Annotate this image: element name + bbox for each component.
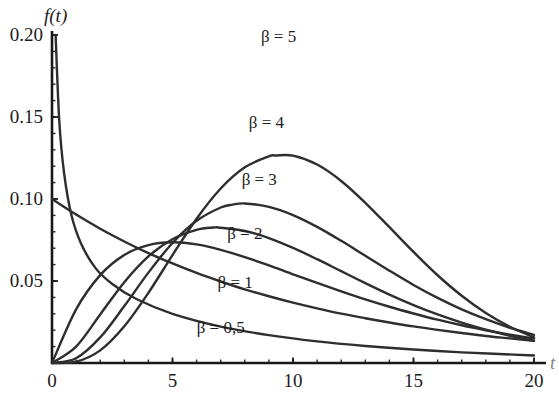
x-tick-label: 10 [284,370,303,391]
x-tick-label: 15 [404,370,423,391]
series-annotation: β = 1 [218,273,253,292]
y-axis-label: f(t) [44,5,67,27]
y-tick-label: 0.15 [10,106,43,127]
series-annotation: β = 4 [249,113,285,132]
y-tick-label: 0.20 [10,24,43,45]
x-tick-label: 0 [47,370,57,391]
x-tick-label: 5 [168,370,178,391]
y-tick-label: 0.10 [10,188,43,209]
chart-svg: 051015200.050.100.150.20 β = 5β = 4β = 3… [0,0,559,394]
gamma-density-chart: 051015200.050.100.150.20 β = 5β = 4β = 3… [0,0,559,394]
series-annotation: β = 3 [242,170,277,189]
series-annotation: β = 0,5 [197,318,245,337]
x-tick-label: 20 [525,370,544,391]
y-tick-label: 0.05 [10,270,43,291]
x-axis-label: t [550,352,556,373]
series-annotation: β = 5 [261,27,296,46]
series-annotation: β = 2 [227,224,262,243]
